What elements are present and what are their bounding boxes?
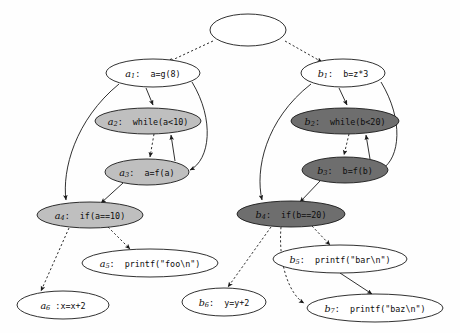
node-b7[interactable]: b7: printf("baz\n"): [307, 294, 443, 322]
dependence-graph: a1: a=g(8)a2: while(a<10)a3: a=f(a)a4: i…: [0, 0, 460, 333]
node-a6[interactable]: a6 :x=x+2: [17, 291, 109, 319]
edge-b4-b6: [228, 227, 271, 287]
node-b6[interactable]: b6: y=y+2: [182, 288, 266, 316]
entry-node-shape[interactable]: [210, 14, 286, 46]
node-a3[interactable]: a3: a=f(a): [105, 159, 189, 185]
node-a4[interactable]: a4: if(a==10): [37, 202, 143, 228]
edge-b3-b4: [300, 181, 320, 202]
edge-root-b1: [285, 41, 322, 62]
edge-b1-b4: [260, 84, 311, 200]
node-b5-label: b5: printf("bar\n"): [289, 253, 390, 266]
edge-root-a1: [168, 41, 213, 62]
node-b5[interactable]: b5: printf("bar\n"): [273, 245, 407, 273]
edge-b3-b2: [366, 135, 370, 159]
edge-a1-a4: [65, 84, 119, 200]
node-b1[interactable]: b1: b=z*3: [301, 59, 385, 87]
edge-a2-a3: [150, 134, 154, 157]
figure-canvas: a1: a=g(8)a2: while(a<10)a3: a=f(a)a4: i…: [0, 0, 460, 333]
node-b7-label: b7: printf("baz\n"): [324, 302, 425, 315]
edge-b2-b3: [344, 134, 349, 155]
node-a5[interactable]: a5: printf("foo\n"): [82, 249, 218, 277]
edge-b1-b2: [339, 88, 347, 105]
edge-a4-a6: [41, 228, 69, 291]
node-b3[interactable]: b3: b=f(b): [302, 157, 388, 183]
node-b4[interactable]: b4: if(b==20): [237, 201, 345, 227]
node-b2[interactable]: b2: while(b<20): [291, 108, 399, 134]
node-b4-label: b4: if(b==20): [256, 208, 327, 221]
edge-a3-a4: [101, 183, 123, 203]
node-a1[interactable]: a1: a=g(8): [106, 59, 200, 87]
edge-b4-b5: [312, 226, 330, 245]
node-a5-label: a5: printf("foo\n"): [100, 257, 201, 270]
node-layer: a1: a=g(8)a2: while(a<10)a3: a=f(a)a4: i…: [17, 14, 443, 322]
edge-a4-a5: [108, 227, 130, 249]
edge-a1-a2: [146, 88, 153, 105]
node-a4-label: a4: if(a==10): [55, 209, 125, 222]
entry-node[interactable]: [210, 14, 286, 46]
edge-a3-a2: [171, 135, 175, 161]
edge-b5-b7: [340, 273, 372, 294]
node-a2[interactable]: a2: while(a<10): [95, 108, 201, 134]
node-a2-label: a2: while(a<10): [108, 115, 189, 128]
node-b2-label: b2: while(b<20): [305, 115, 386, 128]
